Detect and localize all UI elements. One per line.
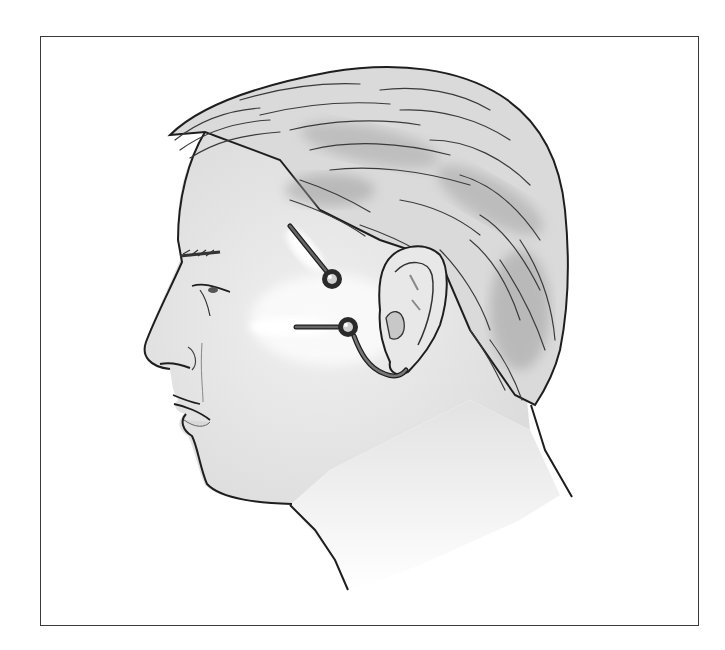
head-profile-illustration xyxy=(0,0,725,650)
